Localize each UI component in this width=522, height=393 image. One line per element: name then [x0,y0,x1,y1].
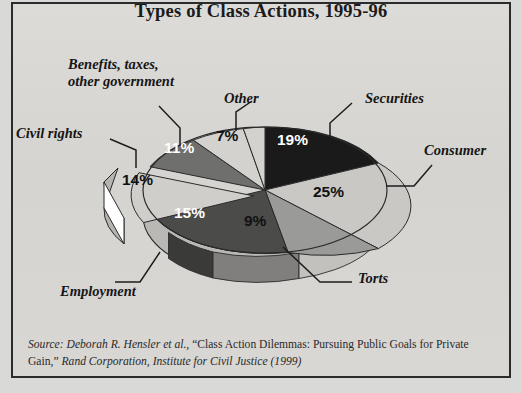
source-publisher: Rand Corporation, Institute for Civil Ju… [62,355,302,368]
label-benefits-line2: other government [68,73,174,89]
label-employment: Employment [60,283,136,300]
torts-wall [213,252,299,282]
value-employment: 15% [174,204,205,222]
value-benefits-taxes: 11% [164,139,194,157]
label-benefits-taxes: Benefits, taxes, other government [68,56,174,89]
leader-employment [115,252,160,282]
label-securities: Securities [365,90,424,107]
label-other: Other [224,90,259,107]
source-author: Deborah R. Hensler et al., [67,338,190,351]
value-other: 7% [216,127,238,145]
source-prefix: Source: [28,338,64,351]
value-consumer: 25% [313,183,344,201]
label-consumer: Consumer [424,142,486,159]
value-torts: 9% [244,212,266,230]
leader-civil-rights [110,139,136,168]
label-torts: Torts [358,270,388,287]
label-benefits-line1: Benefits, taxes, [68,56,159,72]
chart-figure: Types of Class Actions, 1995-96 [0,0,522,393]
value-securities: 19% [277,131,308,149]
label-civil-rights: Civil rights [16,125,82,142]
value-civil-rights: 14% [122,171,153,189]
source-note: Source: Deborah R. Hensler et al., “Clas… [28,337,488,371]
